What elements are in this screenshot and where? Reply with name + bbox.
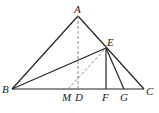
label-B: B — [2, 83, 9, 95]
label-E: E — [106, 36, 114, 48]
geometry-diagram: A B C D E F G M — [0, 0, 159, 113]
label-M: M — [61, 91, 72, 103]
label-D: D — [74, 91, 83, 103]
segment-BE — [12, 48, 106, 89]
segment-ME-dashed — [68, 48, 106, 89]
label-C: C — [146, 85, 154, 97]
segment-EG — [106, 48, 124, 89]
label-A: A — [73, 3, 81, 15]
segment-AB — [12, 16, 78, 89]
label-G: G — [120, 91, 128, 103]
segment-AC — [78, 16, 144, 89]
label-F: F — [101, 91, 109, 103]
